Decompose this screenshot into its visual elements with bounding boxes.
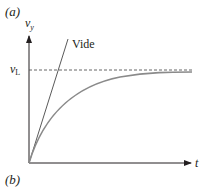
x-axis-label: t: [195, 156, 199, 170]
panel-label-a: (a): [5, 4, 20, 19]
y-axis-label: vy: [25, 16, 34, 32]
vacuum-line: [29, 39, 68, 163]
diagram-canvas: (a) (b) vy t vL Vide: [0, 0, 209, 188]
terminal-velocity-label: vL: [10, 62, 20, 77]
panel-label-b: (b): [5, 172, 20, 187]
vacuum-line-label: Vide: [72, 37, 95, 51]
velocity-time-diagram: (a) (b) vy t vL Vide: [0, 0, 209, 188]
